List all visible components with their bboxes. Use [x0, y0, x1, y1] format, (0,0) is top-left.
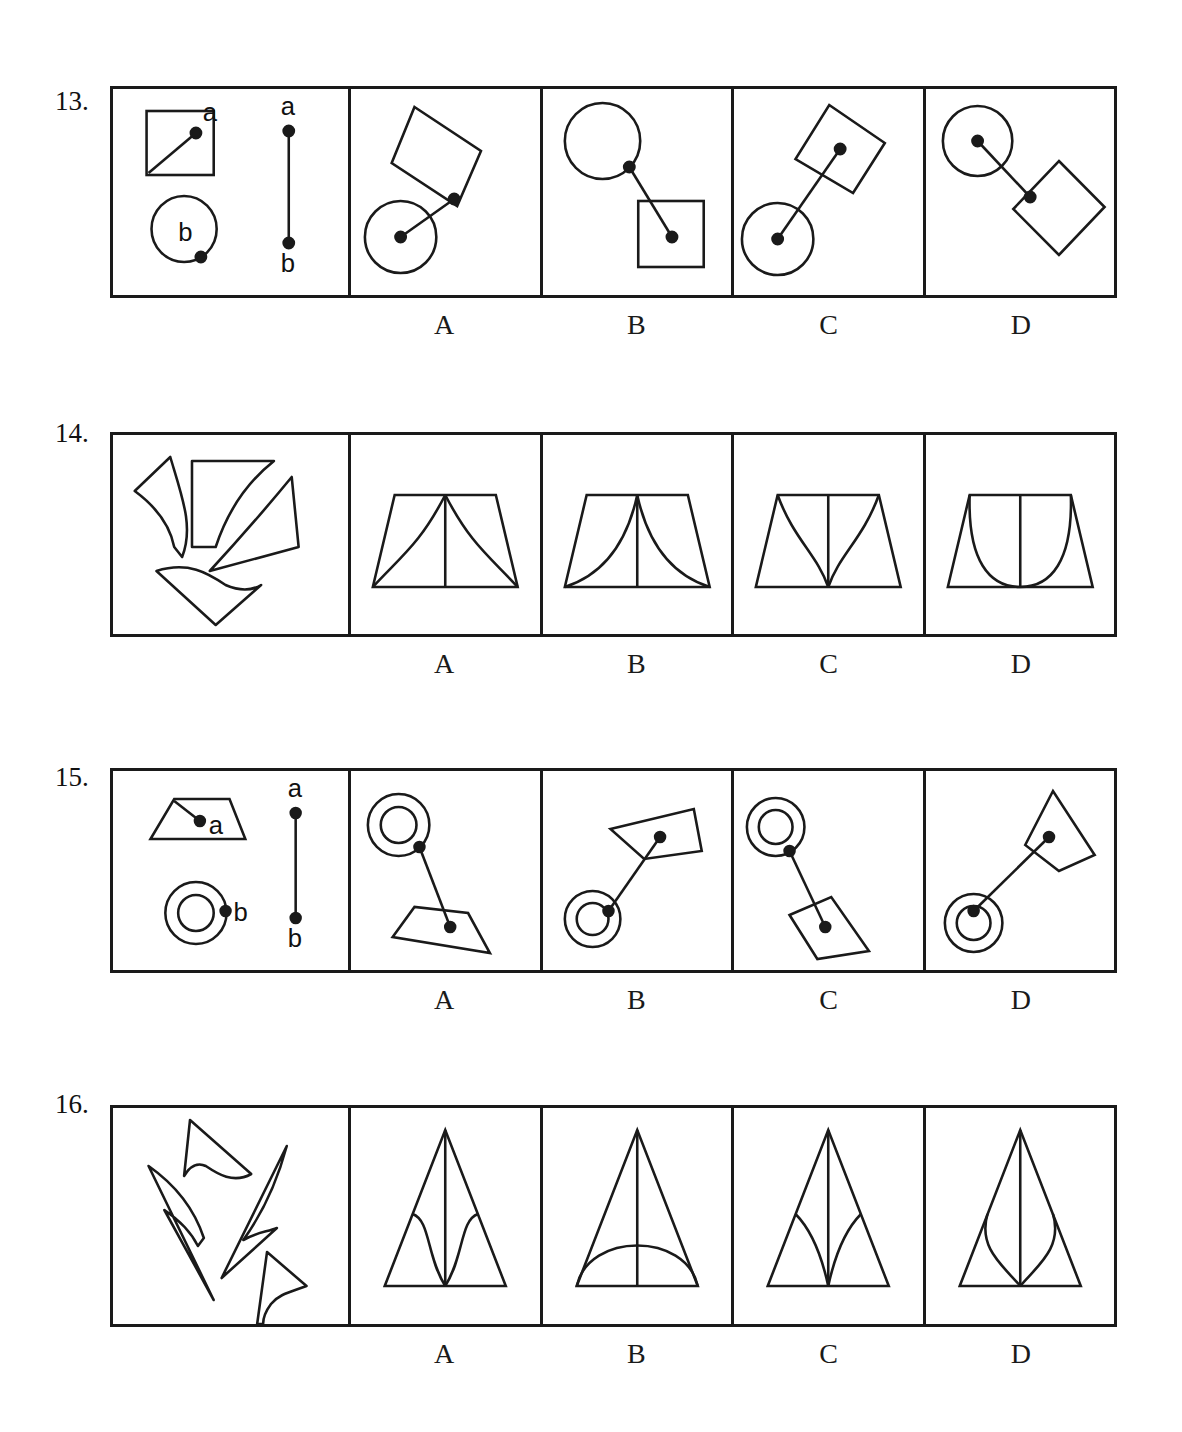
option-letter-B: B — [540, 980, 732, 1020]
option-panel-13-C[interactable] — [734, 89, 926, 295]
option-panel-14-D[interactable] — [926, 435, 1115, 634]
option-letter-B: B — [540, 644, 732, 684]
stem-label-a: a — [203, 98, 218, 126]
letters-spacer — [110, 980, 348, 1020]
option-letters-15: A B C D — [110, 980, 1117, 1020]
option-panel-15-D[interactable] — [926, 771, 1115, 970]
option-panel-16-A[interactable] — [351, 1108, 543, 1324]
stem-label-b: b — [233, 898, 247, 926]
option-panel-16-B[interactable] — [543, 1108, 735, 1324]
question-number-13: 13. — [55, 88, 89, 115]
option-letter-D: D — [925, 1334, 1117, 1374]
option-panel-14-C[interactable] — [734, 435, 926, 634]
panel-strip-16 — [110, 1105, 1117, 1327]
option-panel-14-A[interactable] — [351, 435, 543, 634]
stem-panel-15: a b a b — [113, 771, 351, 970]
test-page: 13. — [0, 0, 1182, 1432]
letters-spacer — [110, 644, 348, 684]
option-panel-16-D[interactable] — [926, 1108, 1115, 1324]
option-letter-D: D — [925, 644, 1117, 684]
option-panel-15-C[interactable] — [734, 771, 926, 970]
stem-panel-13: a b a b — [113, 89, 351, 295]
option-panel-14-B[interactable] — [543, 435, 735, 634]
question-number-16: 16. — [55, 1091, 89, 1118]
question-number-15: 15. — [55, 764, 89, 791]
option-letters-13: A B C D — [110, 305, 1117, 345]
option-letter-C: C — [733, 305, 925, 345]
option-letters-14: A B C D — [110, 644, 1117, 684]
option-letter-A: A — [348, 305, 540, 345]
option-panel-15-A[interactable] — [351, 771, 543, 970]
option-panel-16-C[interactable] — [734, 1108, 926, 1324]
option-panel-13-A[interactable] — [351, 89, 543, 295]
option-letter-A: A — [348, 980, 540, 1020]
letters-spacer — [110, 1334, 348, 1374]
option-letter-A: A — [348, 644, 540, 684]
option-letter-D: D — [925, 305, 1117, 345]
option-letter-A: A — [348, 1334, 540, 1374]
option-letter-C: C — [733, 644, 925, 684]
option-letter-C: C — [733, 980, 925, 1020]
stem-label-b: b — [178, 218, 192, 246]
stem-panel-16 — [113, 1108, 351, 1324]
option-letter-D: D — [925, 980, 1117, 1020]
ref-label-b: b — [288, 924, 302, 952]
letters-spacer — [110, 305, 348, 345]
option-panel-13-D[interactable] — [926, 89, 1115, 295]
stem-label-a: a — [209, 811, 224, 839]
ref-label-b: b — [281, 249, 295, 277]
panel-strip-14 — [110, 432, 1117, 637]
panel-strip-13: a b a b — [110, 86, 1117, 298]
ref-label-a: a — [281, 92, 296, 120]
ref-label-a: a — [288, 774, 303, 802]
option-panel-15-B[interactable] — [543, 771, 735, 970]
stem-panel-14 — [113, 435, 351, 634]
panel-strip-15: a b a b — [110, 768, 1117, 973]
question-number-14: 14. — [55, 420, 89, 447]
option-letter-C: C — [733, 1334, 925, 1374]
option-letter-B: B — [540, 1334, 732, 1374]
option-letters-16: A B C D — [110, 1334, 1117, 1374]
option-panel-13-B[interactable] — [543, 89, 735, 295]
option-letter-B: B — [540, 305, 732, 345]
